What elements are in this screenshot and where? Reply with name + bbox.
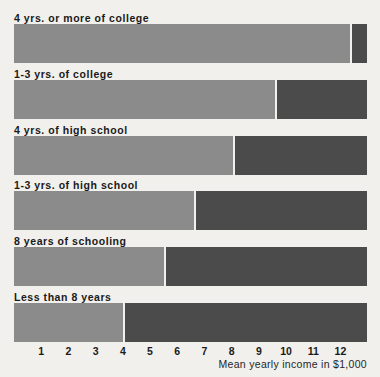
- bar-row-label: 1-3 yrs. of college: [14, 68, 367, 80]
- bar-value-segment: [14, 247, 166, 286]
- bar-row-label: 1-3 yrs. of high school: [14, 179, 367, 191]
- bar-row-label: Less than 8 years: [14, 291, 367, 303]
- x-tick-label: 6: [174, 345, 180, 358]
- x-tick-label: 7: [201, 345, 207, 358]
- bar-track: [14, 24, 367, 63]
- x-tick-label: 3: [93, 345, 99, 358]
- bar-track: [14, 136, 367, 175]
- bar-row-label: 8 years of schooling: [14, 235, 367, 247]
- bar-value-segment: [14, 191, 196, 230]
- bar-value-segment: [14, 136, 235, 175]
- income-by-education-bar-chart: 4 yrs. or more of college1-3 yrs. of col…: [0, 0, 380, 377]
- bar-row-label: 4 yrs. of high school: [14, 124, 367, 136]
- bar-track: [14, 247, 367, 286]
- bar-track: [14, 80, 367, 119]
- x-tick-label: 10: [280, 345, 292, 358]
- bar-value-segment: [14, 80, 277, 119]
- x-tick-label: 11: [308, 345, 319, 358]
- x-tick-label: 1: [38, 345, 44, 358]
- bar-value-segment: [14, 24, 352, 63]
- x-tick-label: 9: [256, 345, 262, 358]
- bar-row-label: 4 yrs. or more of college: [14, 12, 367, 24]
- x-axis-caption: Mean yearly income in $1,000: [219, 358, 367, 371]
- x-tick-label: 12: [335, 345, 347, 358]
- bar-track: [14, 191, 367, 230]
- bar-track: [14, 303, 367, 342]
- x-tick-label: 2: [65, 345, 71, 358]
- x-tick-label: 8: [229, 345, 235, 358]
- bar-value-segment: [14, 303, 125, 342]
- x-tick-label: 5: [147, 345, 153, 358]
- x-tick-label: 4: [120, 345, 126, 358]
